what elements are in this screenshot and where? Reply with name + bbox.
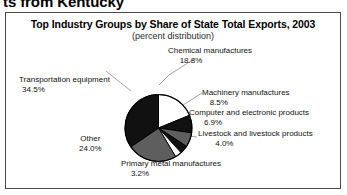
callout-label: Chemical manufactures	[168, 46, 252, 56]
callout-label: Primary metal manufactures	[121, 159, 221, 169]
callout-transportation-equipment: Transportation equipment 34.5%	[19, 75, 110, 95]
callout-label: Computer and electronic products	[189, 108, 309, 118]
callout-primary-metal-manufactures: Primary metal manufactures 3.2%	[121, 159, 221, 179]
page-heading-clipped: ts from Kentucky	[3, 0, 124, 11]
leader-line-machinery	[183, 93, 202, 105]
callout-value: 18.8%	[168, 56, 252, 66]
callout-label: Other	[79, 134, 102, 144]
callout-value: 34.5%	[19, 85, 110, 95]
callout-other: Other 24.0%	[79, 134, 102, 154]
callout-label: Livestock and livestock products	[198, 129, 313, 139]
pie-slices-group	[125, 94, 192, 161]
callout-machinery-manufactures: Machinery manufactures 8.5%	[202, 88, 290, 108]
callout-value: 24.0%	[79, 144, 102, 154]
callout-value: 8.5%	[202, 98, 290, 108]
callout-chemical-manufactures: Chemical manufactures 18.8%	[168, 46, 252, 66]
chart-figure-frame: Top Industry Groups by Share of State To…	[5, 12, 341, 189]
callout-value: 4.0%	[198, 139, 313, 149]
callout-label: Machinery manufactures	[202, 88, 290, 98]
callout-label: Transportation equipment	[19, 75, 110, 85]
callout-computer-electronic-products: Computer and electronic products 6.9%	[189, 108, 309, 128]
callout-value: 6.9%	[189, 118, 309, 128]
callout-value: 3.2%	[121, 169, 221, 179]
callout-livestock-products: Livestock and livestock products 4.0%	[198, 129, 313, 149]
